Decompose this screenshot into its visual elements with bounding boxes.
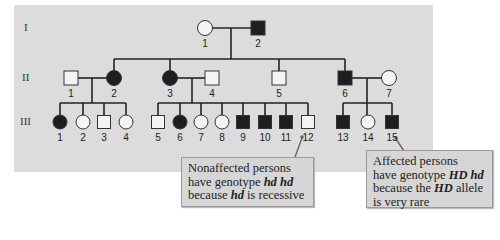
individual-iii-1-circle	[53, 115, 67, 129]
individual-ii-3-circle	[163, 71, 178, 86]
individual-number-i-2: 2	[248, 38, 268, 49]
individual-i-1-circle	[198, 21, 213, 36]
individual-iii-5-square	[152, 116, 165, 129]
individual-number-iii-10: 10	[255, 132, 275, 143]
individual-number-iii-2: 2	[73, 132, 93, 143]
individual-number-ii-5: 5	[269, 88, 289, 99]
individual-iii-11-square	[280, 116, 293, 129]
individual-iii-3-square	[98, 116, 111, 129]
individual-ii-6-square	[338, 71, 352, 85]
individual-number-iii-6: 6	[170, 132, 190, 143]
individual-ii-5-square	[272, 71, 286, 85]
pedigree-symbols	[53, 21, 399, 130]
individual-iii-8-circle	[215, 115, 229, 129]
individual-iii-14-circle	[361, 115, 375, 129]
callout-nonaffected-line2: have genotype hd hd	[188, 176, 307, 190]
individual-iii-10-square	[259, 116, 272, 129]
individual-ii-7-circle	[382, 71, 397, 86]
individual-number-iii-9: 9	[233, 132, 253, 143]
callout-affected: Affected persons have genotype HD hd bec…	[366, 150, 493, 208]
individual-iii-4-circle	[119, 115, 133, 129]
callout-affected-line2: have genotype HD hd	[373, 169, 486, 183]
callout-nonaffected-line1: Nonaffected persons	[188, 162, 307, 176]
individual-number-iii-13: 13	[333, 132, 353, 143]
callout-affected-line1: Affected persons	[373, 155, 486, 169]
callout-affected-line4: is very rare	[373, 196, 486, 210]
callout-affected-line3: because the HD allele	[373, 182, 486, 196]
individual-iii-2-circle	[76, 115, 90, 129]
individual-number-iii-14: 14	[358, 132, 378, 143]
individual-number-iii-1: 1	[50, 132, 70, 143]
individual-iii-9-square	[237, 116, 250, 129]
individual-number-i-1: 1	[195, 38, 215, 49]
individual-number-ii-3: 3	[160, 88, 180, 99]
individual-iii-12-square	[302, 116, 315, 129]
individual-iii-6-circle	[173, 115, 187, 129]
individual-iii-15-square	[386, 116, 399, 129]
individual-number-iii-11: 11	[276, 132, 296, 143]
individual-ii-2-circle	[107, 71, 122, 86]
callout-nonaffected: Nonaffected persons have genotype hd hd …	[181, 157, 314, 207]
individual-iii-7-circle	[194, 115, 208, 129]
individual-ii-4-square	[205, 71, 219, 85]
individual-ii-1-square	[64, 71, 78, 85]
callout-nonaffected-line3: because hd is recessive	[188, 189, 307, 203]
individual-number-iii-5: 5	[148, 132, 168, 143]
individual-number-ii-6: 6	[335, 88, 355, 99]
individual-number-ii-4: 4	[202, 88, 222, 99]
individual-number-ii-7: 7	[379, 88, 399, 99]
individual-iii-13-square	[337, 116, 350, 129]
individual-number-iii-15: 15	[382, 132, 402, 143]
individual-number-ii-2: 2	[104, 88, 124, 99]
individual-number-iii-8: 8	[212, 132, 232, 143]
individual-number-iii-3: 3	[94, 132, 114, 143]
individual-i-2-square	[251, 21, 265, 35]
individual-number-iii-4: 4	[116, 132, 136, 143]
individual-number-iii-12: 12	[298, 132, 318, 143]
individual-number-ii-1: 1	[61, 88, 81, 99]
individual-number-iii-7: 7	[191, 132, 211, 143]
